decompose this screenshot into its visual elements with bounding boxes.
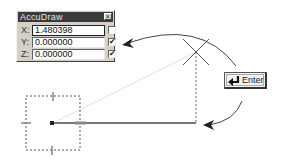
upper-arrowhead <box>122 38 134 48</box>
axis-label-z: Z: <box>21 49 29 60</box>
y-value-field[interactable]: 0.000000 <box>32 37 105 48</box>
enter-key[interactable]: Enter <box>224 72 267 89</box>
accudraw-palette: AccuDraw × X: 1.480398 Y: 0.000000 ✔ Z: … <box>16 10 115 62</box>
upper-arc <box>128 34 236 66</box>
rubber-band-line <box>53 52 196 123</box>
lower-arc <box>209 101 242 125</box>
accudraw-diagram: AccuDraw × X: 1.480398 Y: 0.000000 ✔ Z: … <box>0 0 286 159</box>
z-value-field[interactable]: 0.000000 <box>32 49 105 60</box>
palette-title: AccuDraw <box>20 12 63 22</box>
row-z: Z: 0.000000 ✔ <box>19 49 114 60</box>
palette-titlebar[interactable]: AccuDraw × <box>18 12 113 22</box>
y-lock-checkbox[interactable]: ✔ <box>108 38 116 46</box>
x-lock-checkbox[interactable] <box>108 26 116 34</box>
lower-arrowhead <box>203 120 214 130</box>
return-arrow-icon <box>228 76 241 86</box>
z-lock-checkbox[interactable]: ✔ <box>108 50 116 58</box>
enter-key-label: Enter <box>242 75 264 86</box>
close-button[interactable]: × <box>104 13 112 20</box>
origin-point <box>50 121 54 125</box>
row-y: Y: 0.000000 ✔ <box>19 37 114 48</box>
axis-label-y: Y: <box>21 37 29 48</box>
row-x: X: 1.480398 <box>19 25 114 36</box>
axis-label-x: X: <box>21 25 30 36</box>
x-value-field[interactable]: 1.480398 <box>32 25 105 36</box>
